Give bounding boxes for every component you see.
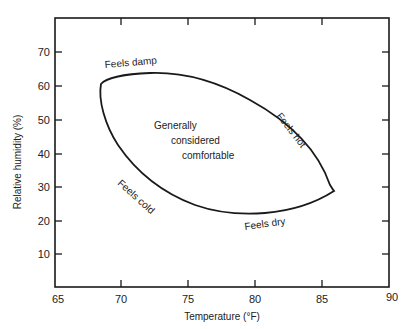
y-tick-labels: 10 20 30 40 50 60 70 (38, 46, 50, 260)
x-tick-65: 65 (52, 293, 64, 305)
x-tick-75: 75 (182, 293, 194, 305)
y-tick-10: 10 (38, 248, 50, 260)
annotation-feels-cold: Feels cold (116, 177, 157, 216)
center-line-2: considered (171, 135, 220, 146)
annotation-feels-hot: Feels hot (274, 110, 308, 149)
x-axis-title: Temperature (°F) (184, 311, 260, 322)
center-line-1: Generally (154, 120, 197, 131)
y-tick-70: 70 (38, 46, 50, 58)
x-tick-90: 90 (386, 291, 398, 303)
center-annotation: Generally considered comfortable (154, 120, 235, 161)
x-tick-80: 80 (249, 293, 261, 305)
x-tick-70: 70 (115, 293, 127, 305)
center-line-3: comfortable (182, 150, 235, 161)
y-tick-60: 60 (38, 80, 50, 92)
annotation-feels-damp: Feels damp (104, 54, 157, 70)
comfort-chart: 10 20 30 40 50 60 70 65 70 75 80 85 90 T… (0, 0, 408, 329)
y-tick-40: 40 (38, 148, 50, 160)
y-tick-20: 20 (38, 215, 50, 227)
x-tick-labels: 65 70 75 80 85 90 (52, 291, 398, 305)
y-tick-30: 30 (38, 181, 50, 193)
y-tick-50: 50 (38, 114, 50, 126)
annotation-feels-dry: Feels dry (244, 215, 286, 232)
x-tick-85: 85 (316, 293, 328, 305)
y-axis-title: Relative humidity (%) (12, 115, 23, 209)
